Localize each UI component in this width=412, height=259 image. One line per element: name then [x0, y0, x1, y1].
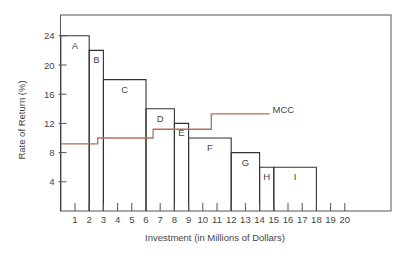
- y-tick-label: 12: [44, 118, 55, 129]
- bar-i: I: [274, 167, 317, 211]
- x-tick-label: 9: [186, 214, 191, 225]
- bar-outline: [146, 109, 174, 211]
- x-tick-label: 13: [240, 214, 251, 225]
- x-tick-label: 2: [87, 214, 92, 225]
- x-tick-label: 18: [311, 214, 322, 225]
- bar-label: H: [263, 171, 270, 182]
- bar-label: A: [72, 40, 79, 51]
- bar-label: C: [121, 84, 128, 95]
- x-tick-label: 1: [72, 214, 77, 225]
- bars: ABCDEFGHI: [61, 36, 317, 211]
- y-tick-label: 16: [44, 89, 55, 100]
- bar-h: H: [260, 167, 274, 211]
- bar-outline: [89, 50, 103, 211]
- bar-label: B: [93, 54, 99, 65]
- plot-border: [61, 15, 392, 211]
- x-tick-label: 3: [101, 214, 106, 225]
- x-tick-label: 7: [158, 214, 163, 225]
- bar-c: C: [103, 80, 146, 211]
- x-tick-label: 17: [297, 214, 308, 225]
- y-tick-label: 24: [44, 30, 55, 41]
- y-axis-title: Rate of Return (%): [16, 80, 27, 159]
- y-tick-label: 8: [49, 147, 54, 158]
- y-tick-label: 4: [49, 176, 54, 187]
- bar-e: E: [174, 123, 188, 211]
- x-tick-label: 12: [226, 214, 237, 225]
- bar-label: G: [242, 157, 249, 168]
- x-tick-label: 16: [283, 214, 294, 225]
- x-tick-label: 15: [269, 214, 280, 225]
- bar-label: D: [157, 113, 164, 124]
- x-axis: 1234567891011121314151617181920: [72, 203, 350, 225]
- x-tick-label: 10: [198, 214, 209, 225]
- x-axis-title: Investment (in Millions of Dollars): [145, 232, 285, 243]
- mcc-label: MCC: [273, 104, 295, 115]
- bar-f: F: [189, 138, 232, 211]
- bar-b: B: [89, 50, 103, 211]
- x-tick-label: 6: [143, 214, 148, 225]
- x-tick-label: 19: [325, 214, 336, 225]
- plot-frame: [61, 15, 392, 211]
- x-tick-label: 14: [254, 214, 265, 225]
- bar-label: I: [294, 171, 297, 182]
- x-tick-label: 11: [212, 214, 222, 225]
- x-tick-label: 20: [340, 214, 351, 225]
- x-tick-label: 4: [115, 214, 120, 225]
- x-tick-label: 8: [172, 214, 177, 225]
- y-axis: 4812162024: [44, 30, 67, 187]
- mcc-path: [61, 114, 270, 144]
- bar-outline: [103, 80, 146, 211]
- y-tick-label: 20: [44, 60, 55, 71]
- chart: ABCDEFGHI MCC 12345678910111213141516171…: [0, 0, 412, 259]
- x-tick-label: 5: [129, 214, 134, 225]
- bar-d: D: [146, 109, 174, 211]
- bar-label: F: [207, 142, 213, 153]
- bar-g: G: [231, 153, 259, 211]
